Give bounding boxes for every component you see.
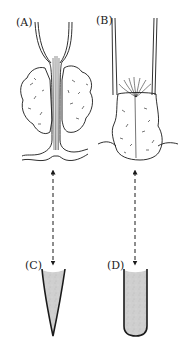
diagram-drawing: [0, 0, 189, 364]
panel-d-tube-vessel: [124, 270, 147, 336]
diagram-figure: (A) (B) (C) (D): [0, 0, 189, 364]
panel-c-cone-vessel: [42, 270, 64, 336]
panel-a-drawing: [21, 22, 93, 161]
panel-b-drawing: [98, 18, 178, 160]
